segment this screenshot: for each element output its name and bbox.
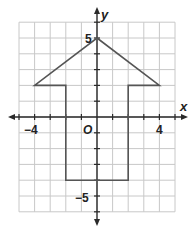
x-axis-right-arrow-icon (181, 114, 188, 120)
y-axis-label: y (100, 7, 109, 22)
x-axis-label: x (179, 99, 188, 114)
coordinate-plane: x y O −4 4 5 −5 (0, 0, 194, 234)
x-tick-label-neg4: −4 (24, 123, 38, 137)
y-tick-label-5: 5 (85, 32, 92, 46)
y-tick-label-neg5: −5 (75, 191, 89, 205)
x-axis-left-arrow-icon (8, 114, 15, 120)
x-tick-label-4: 4 (156, 123, 163, 137)
y-axis-up-arrow-icon (94, 7, 100, 14)
y-axis-down-arrow-icon (94, 219, 100, 226)
origin-label: O (83, 123, 93, 137)
